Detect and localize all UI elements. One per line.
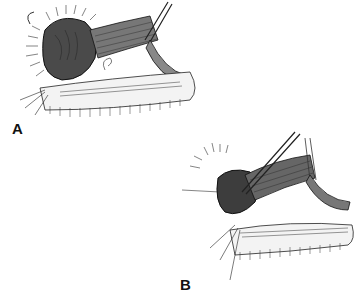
panel-b-illustration	[150, 130, 362, 296]
panel-label-a: A	[12, 121, 23, 136]
surgical-drawing-a	[0, 0, 220, 145]
panel-a-illustration	[0, 0, 220, 145]
surgical-drawing-b	[150, 130, 362, 296]
panel-label-b: B	[180, 277, 191, 292]
